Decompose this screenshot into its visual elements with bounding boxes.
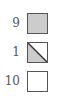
diagonal-half-square-icon xyxy=(27,42,48,63)
legend-row-filled: 9 xyxy=(0,13,57,34)
legend-label: 1 xyxy=(12,45,20,59)
legend-label: 10 xyxy=(5,74,20,88)
legend-row-half-diagonal: 1 xyxy=(0,42,57,63)
filled-square-icon xyxy=(27,13,48,34)
empty-square-icon xyxy=(27,71,48,92)
legend-label: 9 xyxy=(12,16,20,30)
legend-row-empty: 10 xyxy=(0,71,57,92)
